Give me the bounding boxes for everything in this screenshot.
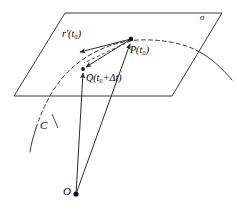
tangent-vector-label: r′(t₀) bbox=[62, 29, 81, 39]
tangent-vector-arrow bbox=[80, 39, 131, 52]
curve-label-c: C bbox=[40, 120, 47, 131]
secant-chord-dashed bbox=[84, 41, 130, 63]
position-vector-op-arrow bbox=[76, 44, 130, 194]
vector-derivative-figure: σ r′(t₀) P(t₀) Q(t₀+Δt) C O bbox=[0, 0, 237, 212]
origin-label-o: O bbox=[63, 186, 71, 197]
point-q-marker bbox=[81, 67, 85, 71]
point-p-marker bbox=[129, 37, 133, 41]
plane-label-sigma: σ bbox=[200, 13, 204, 22]
curve-c-lower-tail bbox=[30, 128, 36, 152]
point-o-marker bbox=[73, 191, 78, 196]
curve-label-leader bbox=[52, 114, 58, 128]
point-q-label: Q(t₀+Δt) bbox=[86, 73, 122, 83]
secant-vector-pq-arrow bbox=[86, 39, 131, 67]
curve-c-solid-segment bbox=[196, 50, 232, 80]
diagram-canvas bbox=[0, 0, 237, 212]
point-p-label: P(t₀) bbox=[130, 45, 149, 55]
position-vector-oq-arrow bbox=[76, 73, 83, 194]
tangent-plane-sigma bbox=[14, 13, 222, 96]
